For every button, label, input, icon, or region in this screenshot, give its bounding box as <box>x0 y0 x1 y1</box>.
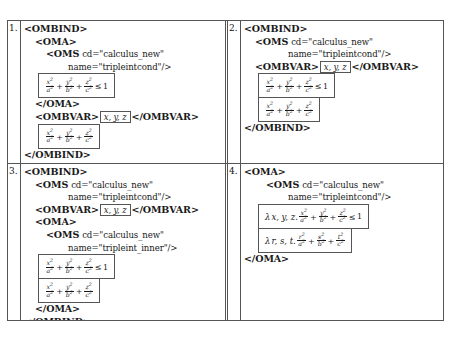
fraction: x2a2 <box>46 260 55 274</box>
xml-attribute: cd="calculus_new" <box>82 49 164 59</box>
xml-tag: <OMA> <box>35 36 77 47</box>
code-line: <OMS cd="calculus_new" <box>24 48 225 61</box>
xml-attribute: name="tripleintcond"/> <box>68 192 171 202</box>
xml-tag: <OMA> <box>35 216 77 227</box>
fraction: y2b2 <box>65 260 74 274</box>
xml-attribute: name="tripleintcond"/> <box>288 49 391 59</box>
equation: λx, y, z.x2a2+y2b2+z2c2≤1 <box>265 210 362 224</box>
formula-box-wrap: x2a2+y2b2+z2c2≤1 <box>244 73 443 98</box>
xml-tag: </OMBIND> <box>24 149 91 160</box>
xml-tag: <OMBIND> <box>24 23 87 34</box>
fraction: t2c2 <box>336 234 344 248</box>
panel-number: 3. <box>8 164 21 320</box>
rhs-value: 1 <box>357 213 362 222</box>
code-line: <OMBIND> <box>24 23 225 36</box>
fraction: x2a2 <box>46 79 55 93</box>
variable-box: x, y, z <box>100 111 131 123</box>
formula-box-wrap: λr, s, t.r2a2+s2b2+t2c2 <box>244 228 443 253</box>
figure-page: 1. <OMBIND> <OMA> <OMS cd="calculus_new"… <box>0 0 451 340</box>
relation-symbol: ≤ <box>347 213 357 222</box>
xml-tag: <OMS <box>46 48 79 59</box>
xml-tag-open: <OMBVAR> <box>255 61 319 72</box>
panel-2: 2. <OMBIND> <OMS cd="calculus_new" name=… <box>225 21 443 163</box>
code-line: name="tripleintcond"/> <box>24 191 225 204</box>
formula-box: λx, y, z.x2a2+y2b2+z2c2≤1 <box>258 204 369 229</box>
formula-box: λr, s, t.r2a2+s2b2+t2c2 <box>258 228 352 253</box>
bound-variables: r, s, t. <box>271 236 296 246</box>
code-line: <OMA> <box>244 166 443 179</box>
panel-number: 2. <box>228 21 241 163</box>
code-line: <OMS cd="calculus_new" <box>244 36 443 49</box>
equation: x2a2+y2b2+z2c2 <box>45 130 93 144</box>
code-line: </OMA> <box>24 303 225 316</box>
xml-tag: </OMA> <box>244 253 289 264</box>
fraction: y2b2 <box>285 103 294 117</box>
equation: x2a2+y2b2+z2c2≤1 <box>45 261 108 275</box>
xml-attribute: cd="calculus_new" <box>71 180 153 190</box>
code-line: name="tripleintcond"/> <box>24 61 225 74</box>
equation: x2a2+y2b2+z2c2 <box>265 104 313 118</box>
equation: x2a2+y2b2+z2c2≤1 <box>265 80 328 94</box>
code-line: </OMA> <box>244 253 443 266</box>
formula-box-wrap: λx, y, z.x2a2+y2b2+z2c2≤1 <box>244 204 443 229</box>
panel-4: 4. <OMA> <OMS cd="calculus_new" name="tr… <box>225 164 443 320</box>
fraction: x2a2 <box>266 103 275 117</box>
xml-attribute: cd="calculus_new" <box>302 180 384 190</box>
fraction: x2a2 <box>299 210 308 224</box>
xml-tag: <OMA> <box>244 166 286 177</box>
xml-tag: </OMBIND> <box>24 316 91 320</box>
relation-symbol: ≤ <box>313 82 323 91</box>
fraction: z2c2 <box>304 79 312 93</box>
formula-box-wrap: x2a2+y2b2+z2c2≤1 <box>24 73 225 98</box>
fraction: z2c2 <box>84 130 92 144</box>
xml-tag: <OMS <box>266 179 299 190</box>
formula-box-wrap: x2a2+y2b2+z2c2 <box>244 97 443 122</box>
panel-body: <OMBIND> <OMS cd="calculus_new" name="tr… <box>241 21 443 163</box>
xml-tag: </OMA> <box>35 303 80 314</box>
ombvar-line: <OMBVAR>x, y, z</OMBVAR> <box>244 61 443 74</box>
code-line: name="tripleintcond"/> <box>244 191 443 204</box>
panel-body: <OMA> <OMS cd="calculus_new" name="tripl… <box>241 164 443 320</box>
xml-attribute: name="tripleint_inner"/> <box>68 243 177 253</box>
xml-attribute: name="tripleintcond"/> <box>288 192 391 202</box>
equation: x2a2+y2b2+z2c2≤1 <box>45 80 108 94</box>
fraction: y2b2 <box>65 79 74 93</box>
xml-attribute: name="tripleintcond"/> <box>68 62 171 72</box>
xml-tag-close: </OMBVAR> <box>132 111 199 122</box>
fraction: x2a2 <box>46 130 55 144</box>
panel-number: 1. <box>8 21 21 163</box>
fraction: z2c2 <box>84 79 92 93</box>
formula-box-wrap: x2a2+y2b2+z2c2 <box>24 124 225 149</box>
fraction: r2a2 <box>297 234 306 248</box>
panel-number: 4. <box>228 164 241 320</box>
fraction: s2b2 <box>317 234 326 248</box>
fraction: x2a2 <box>46 284 55 298</box>
variable-box: x, y, z <box>320 61 351 73</box>
xml-tag-open: <OMBVAR> <box>35 204 99 215</box>
relation-symbol: ≤ <box>93 263 103 272</box>
table-row: 3. <OMBIND> <OMS cd="calculus_new" name=… <box>8 163 443 320</box>
fraction: y2b2 <box>319 210 328 224</box>
code-line: <OMS cd="calculus_new" <box>24 179 225 192</box>
ombvar-line: <OMBVAR>x, y, z</OMBVAR> <box>24 204 225 217</box>
fraction: z2c2 <box>304 103 312 117</box>
xml-tag: </OMA> <box>35 98 80 109</box>
relation-symbol: ≤ <box>93 82 103 91</box>
xml-tag: <OMS <box>35 179 68 190</box>
code-line: name="tripleintcond"/> <box>244 48 443 61</box>
rhs-value: 1 <box>103 82 108 91</box>
ombvar-line: <OMBVAR>x, y, z</OMBVAR> <box>24 111 225 124</box>
xml-attribute: cd="calculus_new" <box>82 230 164 240</box>
code-line: </OMBIND> <box>24 316 225 320</box>
code-line: <OMS cd="calculus_new" <box>244 179 443 192</box>
code-line: name="tripleint_inner"/> <box>24 242 225 255</box>
fraction: z2c2 <box>84 260 92 274</box>
xml-tag-open: <OMBVAR> <box>35 111 99 122</box>
formula-box-wrap: x2a2+y2b2+z2c2 <box>24 278 225 303</box>
openmath-encoding-table: 1. <OMBIND> <OMA> <OMS cd="calculus_new"… <box>7 20 444 321</box>
code-line: <OMS cd="calculus_new" <box>24 229 225 242</box>
fraction: x2a2 <box>266 79 275 93</box>
formula-box-wrap: x2a2+y2b2+z2c2≤1 <box>24 254 225 279</box>
table-row: 1. <OMBIND> <OMA> <OMS cd="calculus_new"… <box>8 21 443 163</box>
equation: λr, s, t.r2a2+s2b2+t2c2 <box>265 234 345 248</box>
